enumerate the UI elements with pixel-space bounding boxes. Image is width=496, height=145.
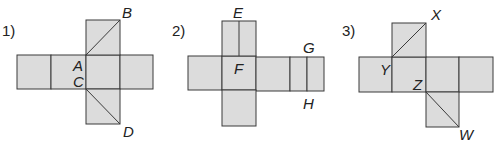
figure-1-number: 1) xyxy=(2,22,15,39)
figure-2-label-h: H xyxy=(303,95,314,112)
figure-3-label-x: X xyxy=(430,6,442,23)
figure-1-label-c: C xyxy=(73,73,84,90)
figure-1: 1) B A C D xyxy=(2,4,153,140)
figure-2-face-right xyxy=(256,57,290,91)
figure-2-label-f: F xyxy=(234,60,244,77)
figure-2-face-bottom xyxy=(222,90,256,126)
figure-2-label-e: E xyxy=(233,4,244,21)
figure-1-face-right xyxy=(120,55,153,89)
figure-1-label-d: D xyxy=(123,123,134,140)
figure-3: 3) X Y Z W xyxy=(342,6,493,143)
figure-1-label-a: A xyxy=(72,57,83,74)
figure-3-label-w: W xyxy=(459,126,475,143)
figure-2-number: 2) xyxy=(172,22,185,39)
nets-diagram: 1) B A C D 2) E F G H 3) xyxy=(0,0,496,145)
figure-2-face-left xyxy=(188,56,222,90)
figure-2-face-narrow-1 xyxy=(290,57,307,91)
figure-2-label-g: G xyxy=(303,39,315,56)
figure-2-face-narrow-2 xyxy=(307,57,324,91)
figure-3-label-y: Y xyxy=(380,61,391,78)
figure-3-label-z: Z xyxy=(412,76,423,93)
figure-3-face-right xyxy=(459,57,493,92)
figure-1-label-b: B xyxy=(122,4,132,21)
figure-3-number: 3) xyxy=(342,22,355,39)
figure-3-face-center-right xyxy=(426,57,459,92)
figure-1-face-center xyxy=(86,55,120,89)
figure-2: 2) E F G H xyxy=(172,4,324,126)
figure-1-face-left xyxy=(17,55,51,89)
